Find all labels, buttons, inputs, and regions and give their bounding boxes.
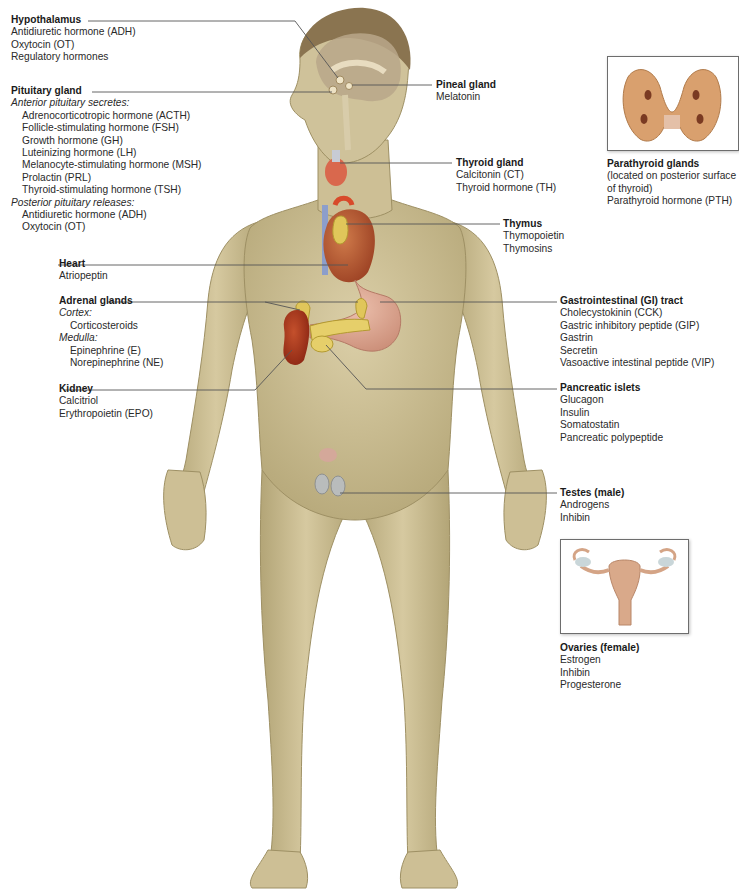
hormone-item: Androgens: [560, 499, 624, 511]
hormone-item: Erythropoietin (EPO): [59, 408, 153, 420]
hormone-item: Estrogen: [560, 654, 639, 666]
hypothalamus-title: Hypothalamus: [11, 14, 136, 26]
gi-tract-title: Gastrointestinal (GI) tract: [560, 295, 714, 307]
hormone-item: Progesterone: [560, 679, 639, 691]
hormone-item: Regulatory hormones: [11, 51, 136, 63]
hormone-item: Calcitriol: [59, 395, 153, 407]
adrenal-title: Adrenal glands: [59, 295, 163, 307]
hormone-item: Follicle-stimulating hormone (FSH): [11, 122, 201, 134]
testes-title: Testes (male): [560, 487, 624, 499]
hormone-item: Cholecystokinin (CCK): [560, 307, 714, 319]
hormone-item: Inhibin: [560, 667, 639, 679]
pituitary-title: Pituitary gland: [11, 85, 201, 97]
label-heart: Heart Atriopeptin: [59, 258, 108, 283]
thymus-icon: [333, 216, 348, 244]
hormone-item: Epinephrine (E): [59, 345, 163, 357]
hormone-item: Oxytocin (OT): [11, 221, 201, 233]
hormone-item: Somatostatin: [560, 419, 663, 431]
label-ovaries: Ovaries (female) Estrogen Inhibin Proges…: [560, 642, 639, 692]
hormone-item: Adrenocorticotropic hormone (ACTH): [11, 110, 201, 122]
parathyroid-title: Parathyroid glands: [607, 158, 736, 170]
heart-title: Heart: [59, 258, 108, 270]
hormone-item: Thyroid hormone (TH): [456, 182, 556, 194]
label-kidney: Kidney Calcitriol Erythropoietin (EPO): [59, 383, 153, 420]
label-gi-tract: Gastrointestinal (GI) tract Cholecystoki…: [560, 295, 714, 369]
pancreatic-title: Pancreatic islets: [560, 382, 663, 394]
medulla-heading: Medulla:: [59, 332, 163, 344]
hormone-item: Oxytocin (OT): [11, 39, 136, 51]
thyroid-title: Thyroid gland: [456, 157, 556, 169]
pituitary-gland-icon: [329, 86, 337, 94]
hormone-item: Gastrin: [560, 332, 714, 344]
uterus-ovaries-illustration: [561, 540, 688, 633]
label-adrenal-glands: Adrenal glands Cortex: Corticosteroids M…: [59, 295, 163, 369]
label-pancreatic-islets: Pancreatic islets Glucagon Insulin Somat…: [560, 382, 663, 444]
kidney-title: Kidney: [59, 383, 153, 395]
label-thymus: Thymus Thymopoietin Thymosins: [503, 218, 564, 255]
hormone-item: Melatonin: [436, 91, 496, 103]
hormone-item: Vasoactive intestinal peptide (VIP): [560, 357, 714, 369]
location-note: (located on posterior surface: [607, 170, 736, 182]
hormone-item: Atriopeptin: [59, 270, 108, 282]
hormone-item: Prolactin (PRL): [11, 172, 201, 184]
hormone-item: Growth hormone (GH): [11, 135, 201, 147]
hormone-item: Thymosins: [503, 243, 564, 255]
legs: [250, 470, 457, 888]
hormone-item: Corticosteroids: [59, 320, 163, 332]
hormone-item: Pancreatic polypeptide: [560, 432, 663, 444]
ovaries-title: Ovaries (female): [560, 642, 639, 654]
thyroid-gland-icon: [325, 158, 347, 186]
label-pituitary-gland: Pituitary gland Anterior pituitary secre…: [11, 85, 201, 234]
ovary-left-icon: [575, 557, 591, 567]
anterior-pituitary-heading: Anterior pituitary secretes:: [11, 97, 201, 109]
hormone-item: Parathyroid hormone (PTH): [607, 195, 736, 207]
hormone-item: Secretin: [560, 345, 714, 357]
ovaries-inset-image: [560, 539, 689, 634]
parathyroid-inset-image: [607, 56, 739, 151]
testes-icon: [315, 474, 329, 494]
hormone-item: Inhibin: [560, 512, 624, 524]
label-parathyroid-glands: Parathyroid glands (located on posterior…: [607, 158, 736, 208]
hormone-item: Norepinephrine (NE): [59, 357, 163, 369]
hormone-item: Antidiuretic hormone (ADH): [11, 26, 136, 38]
hormone-item: Calcitonin (CT): [456, 169, 556, 181]
hormone-item: Insulin: [560, 407, 663, 419]
parathyroid-illustration: [608, 57, 738, 150]
pineal-gland-icon: [346, 83, 353, 90]
heart-icon: [323, 209, 375, 282]
hormone-item: Thymopoietin: [503, 230, 564, 242]
hormone-item: Melanocyte-stimulating hormone (MSH): [11, 159, 201, 171]
location-note: of thyroid): [607, 183, 736, 195]
hormone-item: Glucagon: [560, 394, 663, 406]
hormone-item: Gastric inhibitory peptide (GIP): [560, 320, 714, 332]
hormone-item: Thyroid-stimulating hormone (TSH): [11, 184, 201, 196]
ovary-right-icon: [658, 557, 674, 567]
thymus-title: Thymus: [503, 218, 564, 230]
hormone-item: Luteinizing hormone (LH): [11, 147, 201, 159]
cortex-heading: Cortex:: [59, 307, 163, 319]
label-pineal-gland: Pineal gland Melatonin: [436, 79, 496, 104]
hormone-item: Antidiuretic hormone (ADH): [11, 209, 201, 221]
label-thyroid-gland: Thyroid gland Calcitonin (CT) Thyroid ho…: [456, 157, 556, 194]
label-testes: Testes (male) Androgens Inhibin: [560, 487, 624, 524]
posterior-pituitary-heading: Posterior pituitary releases:: [11, 197, 201, 209]
label-hypothalamus: Hypothalamus Antidiuretic hormone (ADH) …: [11, 14, 136, 64]
pineal-title: Pineal gland: [436, 79, 496, 91]
head: [290, 8, 410, 163]
